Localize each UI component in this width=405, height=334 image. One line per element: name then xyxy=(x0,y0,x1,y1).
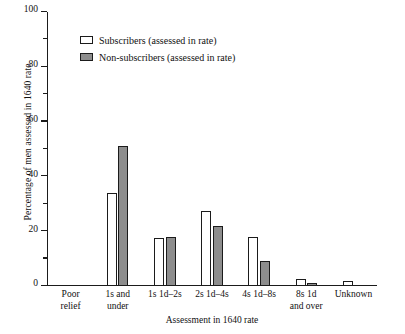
legend-entry: Non-subscribers (assessed in rate) xyxy=(80,50,235,64)
x-axis-tick-labels: Poorrelief1s andunder1s 1d–2s2s 1d–4s4s … xyxy=(47,289,377,312)
bar-group xyxy=(330,12,377,286)
x-axis-tick-label: Poorrelief xyxy=(47,289,94,312)
bar xyxy=(154,238,164,286)
x-axis-title: Assessment in 1640 rate xyxy=(47,315,377,325)
legend-entry: Subscribers (assessed in rate) xyxy=(80,33,235,47)
bar-group xyxy=(283,12,330,286)
bar xyxy=(166,237,176,286)
bar xyxy=(118,146,128,286)
y-axis-tick-label: 60 xyxy=(29,114,39,124)
bar xyxy=(248,237,258,286)
bar xyxy=(201,211,211,286)
legend: Subscribers (assessed in rate)Non-subscr… xyxy=(80,33,235,67)
white-square-icon xyxy=(80,36,93,45)
bar-chart: Percentage of men assessed in 1640 rate … xyxy=(0,0,405,334)
grey-square-icon xyxy=(80,53,93,62)
y-axis-tick-label: 100 xyxy=(24,4,38,14)
x-axis-tick-label: 2s 1d–4s xyxy=(188,289,235,312)
y-axis-tick-label: 20 xyxy=(29,224,39,234)
y-axis-tick-label: 80 xyxy=(29,59,39,69)
legend-label: Non-subscribers (assessed in rate) xyxy=(99,52,235,63)
bar xyxy=(107,193,117,286)
x-axis-tick-label: 8s 1dand over xyxy=(283,289,330,312)
bar xyxy=(296,279,306,286)
y-axis-tick-label: 40 xyxy=(29,169,39,179)
bar xyxy=(260,261,270,286)
x-axis-tick-label: 4s 1d–8s xyxy=(236,289,283,312)
x-axis-tick-label: 1s 1d–2s xyxy=(141,289,188,312)
legend-label: Subscribers (assessed in rate) xyxy=(99,35,216,46)
bar-group xyxy=(236,12,283,286)
bar xyxy=(307,283,317,286)
y-axis-tick-label: 0 xyxy=(33,278,38,288)
bar xyxy=(343,281,353,286)
x-axis-tick-label: Unknown xyxy=(330,289,377,312)
bar xyxy=(213,226,223,286)
x-axis-tick-label: 1s andunder xyxy=(94,289,141,312)
